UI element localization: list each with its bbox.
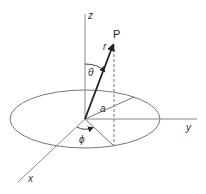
point-label: P [113, 28, 120, 40]
phi-label: ϕ [79, 134, 85, 145]
r-label: r [103, 41, 107, 52]
x-axis-label: x [27, 173, 34, 184]
phi-arc [77, 127, 92, 129]
z-axis-label: z [87, 10, 93, 21]
projection-line [85, 119, 114, 146]
a-label: a [100, 103, 106, 114]
y-axis-label: y [185, 122, 192, 133]
theta-label: θ [88, 67, 94, 78]
spherical-coordinates-diagram: z P r θ a ϕ y x [0, 0, 206, 194]
